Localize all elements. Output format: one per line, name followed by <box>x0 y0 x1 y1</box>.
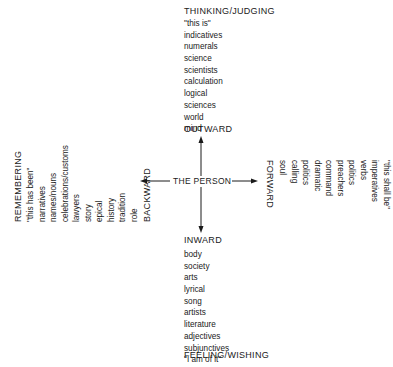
arrow-down-icon <box>199 187 204 233</box>
arrow-left-icon <box>140 179 170 184</box>
arrow-up-icon <box>199 136 204 176</box>
center-label: THE PERSON <box>172 176 232 186</box>
